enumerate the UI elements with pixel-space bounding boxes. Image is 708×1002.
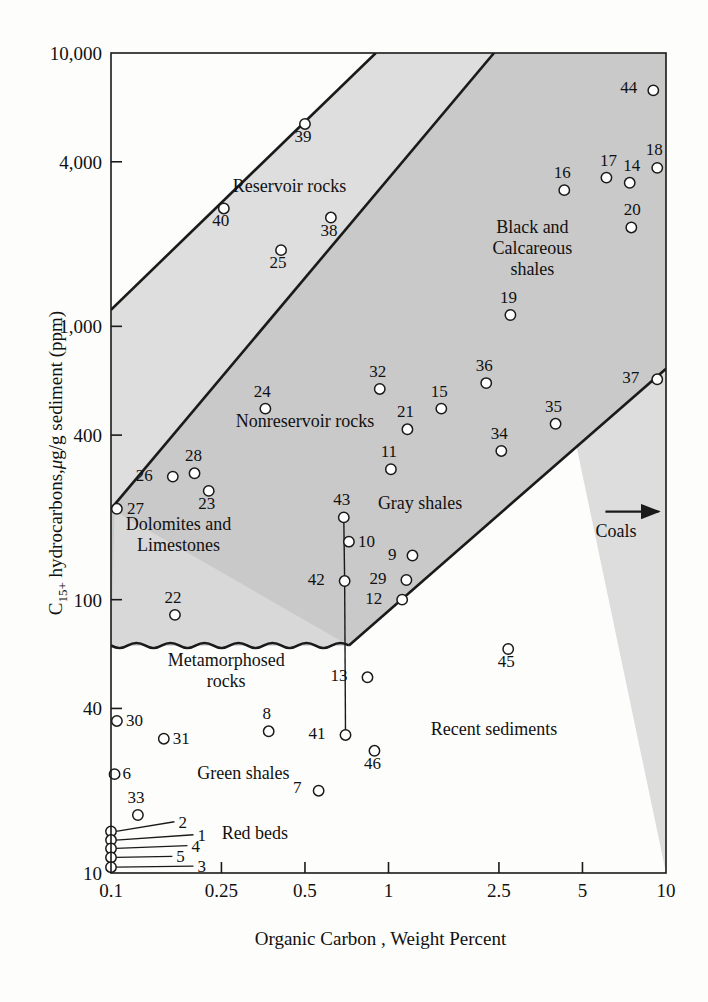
marker-27 [112, 504, 122, 514]
point-label-31: 31 [173, 729, 190, 748]
svg-text:Nonreservoir rocks: Nonreservoir rocks [236, 411, 374, 431]
x-tick-label-0.25: 0.25 [205, 880, 238, 901]
marker-13 [362, 672, 372, 682]
svg-text:Reservoir rocks: Reservoir rocks [233, 176, 346, 196]
svg-text:Limestones: Limestones [137, 535, 220, 555]
point-label-24: 24 [254, 382, 272, 401]
scatter-chart: Reservoir rocksBlack andCalcareousshales… [0, 0, 708, 1002]
point-label-20: 20 [624, 200, 641, 219]
point-label-33: 33 [127, 788, 144, 807]
svg-text:rocks: rocks [207, 671, 246, 691]
x-tick-label-1: 1 [384, 880, 394, 901]
zone-label-reservoir-rocks: Reservoir rocks [233, 176, 346, 196]
marker-9 [407, 550, 417, 560]
marker-7 [313, 786, 323, 796]
x-tick-label-5: 5 [578, 880, 588, 901]
marker-43 [339, 512, 349, 522]
marker-19 [505, 310, 515, 320]
zone-label-gray-shales: Gray shales [378, 493, 462, 513]
point-label-37: 37 [622, 368, 640, 387]
x-tick-label-2.5: 2.5 [487, 880, 511, 901]
marker-16 [559, 185, 569, 195]
point-label-45: 45 [498, 652, 515, 671]
x-tick-label-10: 10 [657, 880, 676, 901]
point-label-25: 25 [270, 253, 287, 272]
marker-22 [170, 610, 180, 620]
point-label-7: 7 [293, 778, 302, 797]
point-label-39: 39 [294, 127, 311, 146]
point-label-6: 6 [123, 764, 132, 783]
point-label-29: 29 [369, 569, 386, 588]
svg-text:Black and: Black and [496, 217, 568, 237]
point-label-27: 27 [127, 499, 145, 518]
marker-30 [112, 716, 122, 726]
marker-12 [397, 594, 407, 604]
svg-text:Gray shales: Gray shales [378, 493, 462, 513]
point-label-42: 42 [308, 570, 325, 589]
point-label-18: 18 [646, 140, 663, 159]
point-label-23: 23 [198, 494, 215, 513]
zone-label-nonreservoir-rocks: Nonreservoir rocks [236, 411, 374, 431]
marker-18 [652, 163, 662, 173]
zone-label-recent-sediments: Recent sediments [431, 719, 557, 739]
marker-14 [625, 178, 635, 188]
point-label-9: 9 [388, 545, 397, 564]
zone-label-red-beds: Red beds [222, 823, 289, 843]
y-tick-label-400: 400 [74, 425, 103, 446]
marker-32 [375, 384, 385, 394]
point-label-44: 44 [620, 78, 638, 97]
point-label-35: 35 [545, 397, 562, 416]
point-label-13: 13 [330, 666, 347, 685]
point-label-32: 32 [369, 362, 386, 381]
point-label-30: 30 [126, 711, 143, 730]
point-label-17: 17 [600, 151, 618, 170]
svg-text:Metamorphosed: Metamorphosed [168, 650, 285, 670]
connector-43-42 [344, 517, 345, 581]
point-label-26: 26 [136, 466, 153, 485]
zone-label-green-shales: Green shales [197, 763, 289, 783]
point-label-5: 5 [176, 847, 185, 866]
marker-24 [260, 403, 270, 413]
marker-28 [189, 468, 199, 478]
point-label-34: 34 [491, 424, 509, 443]
marker-42 [339, 576, 349, 586]
marker-44 [648, 85, 658, 95]
point-label-10: 10 [358, 532, 375, 551]
marker-26 [168, 471, 178, 481]
point-label-43: 43 [333, 490, 350, 509]
point-label-19: 19 [500, 288, 517, 307]
point-label-40: 40 [212, 211, 229, 230]
point-label-15: 15 [431, 382, 448, 401]
marker-41 [340, 730, 350, 740]
marker-37 [652, 374, 662, 384]
x-tick-label-0.1: 0.1 [99, 880, 123, 901]
y-tick-label-10,000: 10,000 [50, 43, 102, 64]
marker-17 [601, 172, 611, 182]
zone-label-coals: Coals [595, 521, 636, 541]
point-label-4: 4 [191, 837, 200, 856]
marker-31 [159, 733, 169, 743]
point-label-8: 8 [262, 704, 271, 723]
zone-label-dolomites-limestones: Dolomites andLimestones [126, 514, 232, 555]
point-label-16: 16 [554, 163, 571, 182]
x-axis-title: Organic Carbon , Weight Percent [255, 928, 507, 949]
svg-text:Green shales: Green shales [197, 763, 289, 783]
point-label-41: 41 [309, 724, 326, 743]
marker-11 [386, 464, 396, 474]
y-tick-label-4,000: 4,000 [59, 152, 102, 173]
point-label-11: 11 [381, 442, 397, 461]
point-label-38: 38 [320, 221, 337, 240]
svg-text:shales: shales [510, 259, 554, 279]
x-tick-label-0.5: 0.5 [293, 880, 317, 901]
marker-29 [401, 575, 411, 585]
svg-text:Recent sediments: Recent sediments [431, 719, 557, 739]
connector-42-41 [345, 581, 346, 735]
marker-15 [436, 403, 446, 413]
point-label-14: 14 [623, 156, 641, 175]
marker-36 [481, 378, 491, 388]
figure-container: Reservoir rocksBlack andCalcareousshales… [0, 0, 708, 1002]
marker-34 [496, 446, 506, 456]
svg-text:Red beds: Red beds [222, 823, 289, 843]
point-label-46: 46 [364, 754, 381, 773]
marker-35 [550, 419, 560, 429]
